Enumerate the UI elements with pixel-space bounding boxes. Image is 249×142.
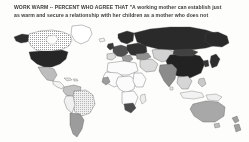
- figure-title-line-2: as warm and secure a relationship with h…: [14, 12, 236, 20]
- region-sri-lanka: [170, 87, 173, 90]
- region-tasmania: [214, 123, 220, 128]
- figure-title-line-1: WORK WARM -- PERCENT WHO AGREE THAT "A w…: [14, 4, 236, 12]
- figure-title: WORK WARM -- PERCENT WHO AGREE THAT "A w…: [14, 4, 236, 19]
- map-figure: WORK WARM -- PERCENT WHO AGREE THAT "A w…: [0, 0, 249, 142]
- world-map: [0, 21, 249, 139]
